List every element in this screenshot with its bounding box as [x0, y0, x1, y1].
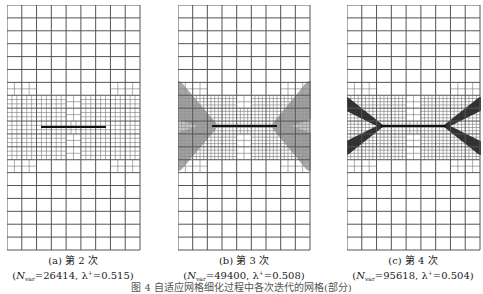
mesh-grid	[178, 5, 311, 251]
mesh-panel-c	[347, 5, 481, 251]
mesh-grid	[7, 5, 141, 251]
figure-caption: 图 4 自适应网格细化过程中各次迭代的网格(部分)	[0, 282, 483, 294]
mesh-grid	[347, 5, 481, 251]
mesh-panel-a	[7, 5, 141, 251]
mesh-panel-b	[178, 5, 311, 251]
